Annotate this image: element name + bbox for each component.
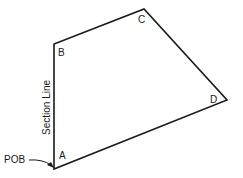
pob-arrow: [29, 160, 54, 168]
vertex-label-d: D: [210, 94, 217, 105]
vertex-label-a: A: [59, 150, 66, 161]
boundary-polygon: [54, 9, 227, 169]
pob-label: POB: [4, 154, 25, 165]
vertex-label-c: C: [138, 14, 145, 25]
vertex-label-b: B: [58, 47, 65, 58]
section-line-label: Section Line: [41, 80, 52, 135]
traverse-diagram: A B C D Section Line POB: [0, 0, 243, 178]
